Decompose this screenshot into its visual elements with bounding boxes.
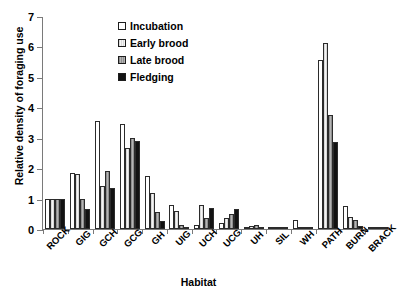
x-tick-label: UH [248, 229, 265, 246]
y-tick-label: 2 [28, 163, 34, 175]
bar-group [93, 17, 118, 229]
x-tick-label: GH [149, 229, 167, 247]
legend-label: Late brood [130, 54, 184, 66]
x-tick-label-cell: ROCK [42, 232, 67, 276]
y-tick-label: 6 [28, 41, 34, 53]
bar [110, 188, 115, 229]
x-tick-label: WH [297, 228, 316, 247]
x-tick-label: GIG [73, 228, 93, 248]
legend-item: Late brood [118, 52, 188, 68]
x-tick-label-cell: SIL [266, 232, 291, 276]
bar [160, 221, 165, 229]
legend-swatch-icon [118, 56, 126, 64]
x-tick-label-cell: GIG [67, 232, 92, 276]
legend-label: Incubation [130, 20, 183, 32]
legend-item: Incubation [118, 18, 188, 34]
bar-group [43, 17, 68, 229]
bar-group [316, 17, 341, 229]
x-axis-title: Habitat [0, 276, 397, 288]
chart-figure: Relative density of foraging use Habitat… [0, 0, 397, 294]
y-axis-title: Relative density of foraging use [13, 11, 25, 201]
chart-legend: IncubationEarly broodLate broodFledging [118, 18, 188, 86]
legend-label: Fledging [130, 71, 174, 83]
legend-item: Fledging [118, 69, 188, 85]
x-tick-label-cell: UIG [166, 232, 191, 276]
x-axis-tick-labels: ROCKGIGGCHGCGGHUIGUCHUCGUHSILWHPATHBURNB… [42, 232, 390, 276]
x-tick-label: SIL [273, 229, 291, 247]
x-tick-label-cell: GCH [92, 232, 117, 276]
bar-group [291, 17, 316, 229]
legend-swatch-icon [118, 22, 126, 30]
bar-group [365, 17, 390, 229]
y-tick-label: 5 [28, 72, 34, 84]
x-tick-label-cell: WH [291, 232, 316, 276]
bar [135, 141, 140, 229]
y-tick-label: 1 [28, 194, 34, 206]
bar [259, 227, 264, 229]
y-tick-label: 0 [28, 224, 34, 236]
bar-group [68, 17, 93, 229]
x-tick-label: UIG [173, 228, 193, 248]
bar-group [216, 17, 241, 229]
y-tick-label: 7 [28, 11, 34, 23]
bar-group [266, 17, 291, 229]
legend-swatch-icon [118, 39, 126, 47]
legend-item: Early brood [118, 35, 188, 51]
bar [85, 209, 90, 229]
bar-groups [43, 17, 390, 229]
legend-swatch-icon [118, 73, 126, 81]
x-tick-label-cell: BURN [340, 232, 365, 276]
x-tick-label-cell: GH [141, 232, 166, 276]
legend-label: Early brood [130, 37, 188, 49]
plot-area: 01234567 [42, 17, 390, 230]
x-tick-label-cell: GCG [117, 232, 142, 276]
bar-group [192, 17, 217, 229]
x-tick-label-cell: UCH [191, 232, 216, 276]
y-tick-label: 4 [28, 102, 34, 114]
x-tick-label-cell: PATH [315, 232, 340, 276]
y-tick-label: 3 [28, 133, 34, 145]
x-tick-label-cell: BRACK [365, 232, 390, 276]
bar-group [241, 17, 266, 229]
bar-group [340, 17, 365, 229]
bar [333, 142, 338, 229]
x-tick-label-cell: UCG [216, 232, 241, 276]
x-tick-label-cell: UH [241, 232, 266, 276]
